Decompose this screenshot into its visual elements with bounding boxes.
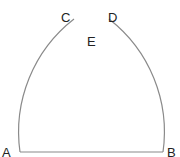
arc-from-a-to-c bbox=[19, 19, 74, 152]
arch-diagram: A B C D E bbox=[0, 0, 180, 157]
label-b: B bbox=[167, 145, 176, 157]
label-e: E bbox=[87, 34, 96, 49]
label-a: A bbox=[2, 145, 11, 157]
label-d: D bbox=[108, 10, 117, 25]
arc-from-b-to-d bbox=[109, 19, 164, 152]
label-c: C bbox=[61, 10, 70, 25]
